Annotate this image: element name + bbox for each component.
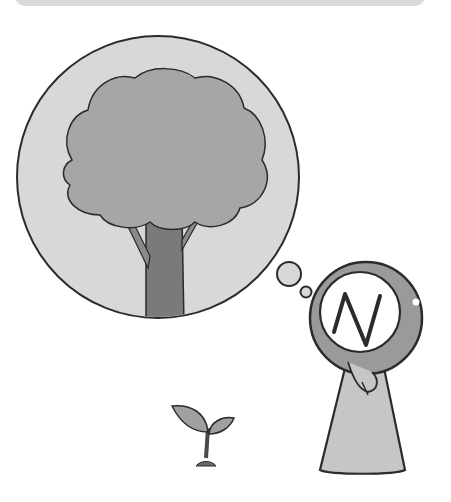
character [310,262,422,474]
thought-bubble [17,36,299,325]
head-highlight [413,299,420,306]
face-disc [320,272,400,352]
thought-dot-large [277,262,301,286]
thought-dot-small [301,287,312,298]
illustration [0,0,451,502]
sprout-icon [172,406,234,466]
